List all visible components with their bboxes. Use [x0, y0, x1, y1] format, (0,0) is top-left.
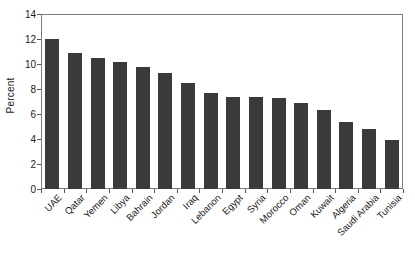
bar [385, 140, 399, 189]
x-tick-label: UAE [42, 192, 64, 214]
bar [91, 58, 105, 189]
y-tick-label: 10 [25, 59, 36, 70]
bar [158, 73, 172, 189]
bar [45, 39, 59, 189]
x-tick-label: Yemen [81, 192, 109, 220]
bar-chart: Percent 02468101214 UAEQatarYemenLibyaBa… [0, 0, 415, 256]
bar [339, 122, 353, 190]
y-axis-title: Percent [0, 0, 22, 190]
bar [204, 93, 218, 189]
y-tick-label: 4 [30, 134, 36, 145]
y-axis-tick-labels: 02468101214 [20, 0, 38, 200]
y-tick-label: 8 [30, 84, 36, 95]
bars-container [41, 14, 403, 189]
x-axis-tick-labels: UAEQatarYemenLibyaBahrainJordanIraqLeban… [41, 192, 415, 256]
bar [294, 103, 308, 189]
bar [136, 67, 150, 189]
bar [68, 53, 82, 189]
y-tick-label: 14 [25, 9, 36, 20]
x-tick-label: Tunisia [375, 192, 404, 221]
bar [226, 97, 240, 190]
y-tick-label: 2 [30, 159, 36, 170]
bar [249, 97, 263, 189]
y-tick-label: 0 [30, 184, 36, 195]
x-tick-label: Jordan [148, 192, 176, 220]
y-tick-label: 6 [30, 109, 36, 120]
bar [272, 98, 286, 189]
bar [113, 62, 127, 189]
bar [362, 129, 376, 189]
x-tick-label: Egypt [220, 192, 245, 217]
y-tick-label: 12 [25, 34, 36, 45]
bar [181, 83, 195, 189]
y-axis-title-label: Percent [6, 77, 17, 113]
bar [317, 110, 331, 189]
